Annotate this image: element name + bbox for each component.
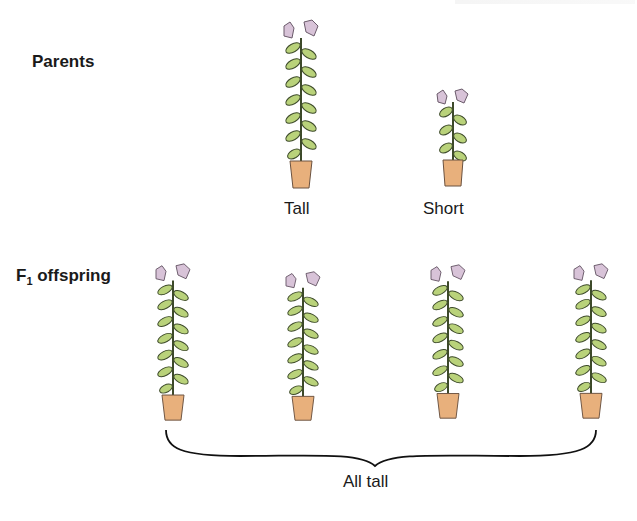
short-caption: Short xyxy=(423,199,464,219)
f1-plant-4-icon xyxy=(568,262,614,420)
all-tall-caption: All tall xyxy=(343,472,388,492)
f1-label-main: F xyxy=(16,266,26,285)
tall-parent-plant-icon xyxy=(278,18,324,190)
parents-label: Parents xyxy=(32,52,94,72)
cropped-header-text xyxy=(455,0,635,4)
f1-plant-1-icon xyxy=(150,262,196,422)
curly-brace-icon xyxy=(160,428,600,468)
f1-plant-3-icon xyxy=(425,263,471,420)
f1-plant-2-icon xyxy=(280,270,326,422)
short-parent-plant-icon xyxy=(433,88,473,188)
tall-caption: Tall xyxy=(284,199,310,219)
f1-label-rest: offspring xyxy=(33,266,111,285)
f1-offspring-label: F1 offspring xyxy=(16,266,111,287)
